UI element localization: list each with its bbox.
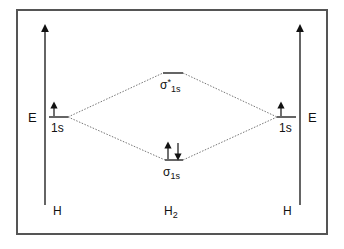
left-atom-label: H <box>53 205 62 217</box>
molecule-label: H2 <box>164 205 178 217</box>
right-atom-label: H <box>283 205 292 217</box>
antibonding-subscript: 1s <box>171 84 181 94</box>
right-1s-label: 1s <box>279 122 292 134</box>
right-energy-label: E <box>308 111 317 124</box>
left-1s-label: 1s <box>51 122 64 134</box>
bonding-subscript: 1s <box>170 171 180 181</box>
antibonding-label: σ*1s <box>160 79 180 91</box>
bonding-label: σ1s <box>163 166 180 178</box>
molecule-label-subscript: 2 <box>173 210 178 220</box>
left-energy-label: E <box>28 111 37 124</box>
molecule-label-main: H <box>164 204 173 218</box>
